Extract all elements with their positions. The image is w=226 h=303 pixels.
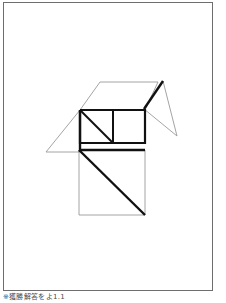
page-canvas: ※獲勝解答をよ1.1 [0,0,226,303]
figure-caption: ※獲勝解答をよ1.1 [3,292,203,303]
figure-border-frame [3,2,213,291]
